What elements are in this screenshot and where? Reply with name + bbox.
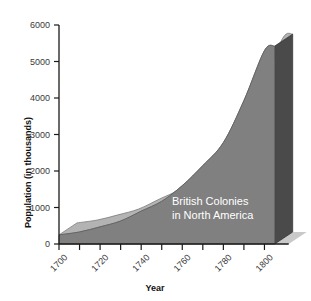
x-tick-label: 1740 xyxy=(130,252,151,273)
annotation-line-2: in North America xyxy=(172,209,254,221)
area-chart-svg: 0100020003000400050006000 17001720174017… xyxy=(0,0,311,301)
area-side-face xyxy=(275,34,293,244)
y-tick-label: 6000 xyxy=(30,20,50,30)
y-tick-label: 5000 xyxy=(30,57,50,67)
y-tick-label: 0 xyxy=(45,239,50,249)
x-axis-ticks xyxy=(59,244,264,250)
y-tick-label: 4000 xyxy=(30,93,50,103)
x-axis-tick-labels: 170017201740176017801800 xyxy=(48,252,275,273)
x-tick-label: 1800 xyxy=(254,252,275,273)
annotation-line-1: British Colonies xyxy=(172,195,249,207)
x-tick-label: 1720 xyxy=(89,252,110,273)
x-tick-label: 1780 xyxy=(213,252,234,273)
x-tick-label: 1760 xyxy=(171,252,192,273)
x-axis-title: Year xyxy=(145,283,165,293)
y-axis-ticks xyxy=(54,25,59,244)
x-tick-label: 1700 xyxy=(48,252,69,273)
y-axis-title: Population (in thousands) xyxy=(23,117,33,228)
chart-container: 0100020003000400050006000 17001720174017… xyxy=(0,0,311,301)
